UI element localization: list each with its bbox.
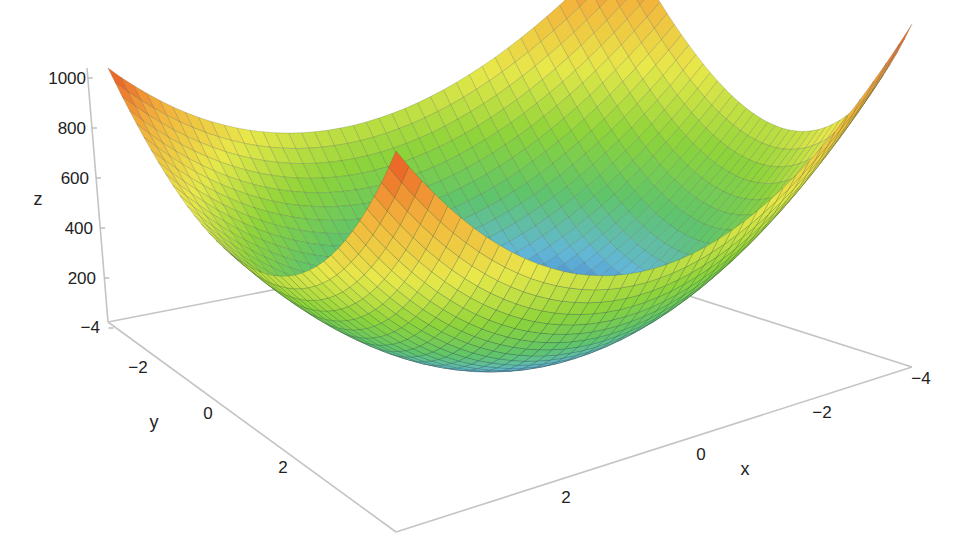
- z-tick-label: 400: [65, 219, 93, 238]
- y-tick-label: 0: [203, 404, 212, 423]
- surface-patch: [846, 96, 866, 126]
- y-axis-title: y: [150, 412, 159, 432]
- x-tick-label: −2: [812, 403, 831, 422]
- z-tick-label: 800: [58, 119, 86, 138]
- x-tick-label: 0: [696, 445, 705, 464]
- z-tick-label: 600: [61, 169, 89, 188]
- z-tick-label: 200: [68, 269, 96, 288]
- x-tick-labels: −4 −2 0 2: [561, 369, 930, 507]
- surface-mesh: [108, 0, 912, 372]
- x-tick-label: −4: [911, 369, 930, 388]
- surface-patch: [879, 44, 899, 78]
- z-axis-title: z: [34, 189, 43, 209]
- y-tick-label: −2: [128, 358, 147, 377]
- x-tick-label: 2: [561, 488, 570, 507]
- z-tick-label: 1000: [48, 69, 86, 88]
- surface-plot: 1000 800 600 400 200 −4 −2 0 2 −4 −2 0 2…: [0, 0, 962, 556]
- surface-patch: [866, 63, 886, 96]
- surface-patch: [853, 82, 873, 114]
- surface-patch: [840, 99, 860, 130]
- y-tick-label: 2: [278, 458, 287, 477]
- x-axis-line: [396, 367, 912, 532]
- z-tick-labels: 1000 800 600 400 200 −4: [48, 69, 100, 337]
- x-axis-title: x: [741, 459, 750, 479]
- z-tick-label: −4: [81, 318, 100, 337]
- surface-patch: [892, 24, 912, 58]
